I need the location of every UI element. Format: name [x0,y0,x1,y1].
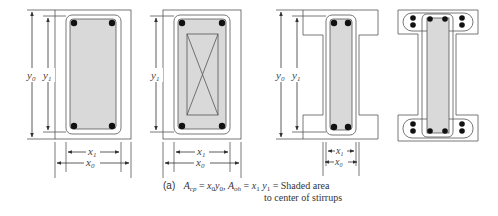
shaded-area [427,18,449,133]
caption-line-2: to center of stirrups [264,192,342,203]
torsion-section-figure: y0 y1 x1 x0 y1 x1 x0 [0,0,498,180]
shaded-area [70,19,116,129]
shaded-area [330,19,352,130]
panel-i-section-flanged [276,10,378,176]
panel-i-section-with-flange-stirrups [398,10,478,141]
panel-solid-rectangular [27,10,131,178]
caption-label: (a) [163,180,175,191]
